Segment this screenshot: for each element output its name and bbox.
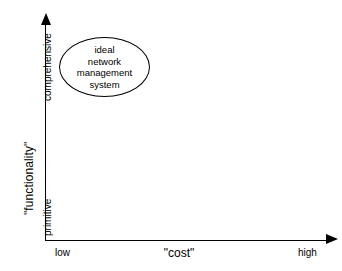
x-axis-line [45,240,328,241]
y-axis-tick-primitive: primitive [42,199,53,236]
y-axis-tick-comprehensive: comprehensive [42,33,53,101]
diagram-canvas: "functionality" comprehensive primitive … [0,0,342,271]
ideal-system-label-line: system [89,79,119,91]
ideal-system-label-line: management [77,67,132,79]
up-arrow-icon [41,13,51,25]
ideal-system-ellipse: ideal network management system [59,37,150,97]
ideal-system-label-line: ideal [94,44,114,56]
x-axis-tick-high: high [298,247,317,258]
ideal-system-label-line: network [88,56,121,68]
x-axis-title: "cost" [16,246,342,260]
right-arrow-icon [326,234,338,244]
y-axis-title: "functionality" [22,142,36,215]
